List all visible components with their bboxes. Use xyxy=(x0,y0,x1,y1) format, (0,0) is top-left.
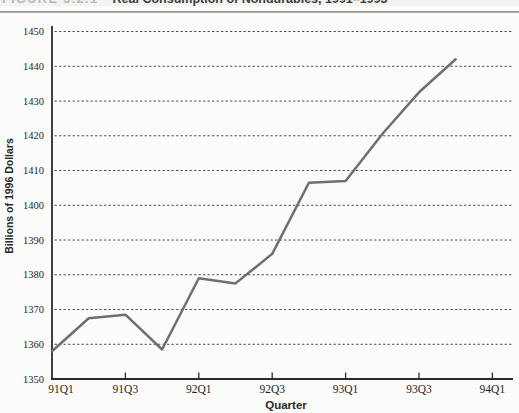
x-tick-label: 93Q1 xyxy=(333,383,359,395)
y-axis-title: Billions of 1996 Dollars xyxy=(3,138,15,254)
y-tick-label: 1420 xyxy=(23,130,44,141)
y-tick-label: 1450 xyxy=(23,26,44,37)
y-tick-label: 1380 xyxy=(23,269,44,280)
x-tick-label: 94Q1 xyxy=(480,383,506,395)
figure-number-label: FIGURE 3.2.1 xyxy=(2,0,99,6)
x-tick-label: 92Q1 xyxy=(186,383,212,395)
consumption-line-chart: 1350136013701380139014001410142014301440… xyxy=(0,0,519,413)
caption-divider-rule xyxy=(0,11,519,13)
y-tick-label: 1350 xyxy=(23,374,44,385)
x-tick-label: 91Q1 xyxy=(48,383,74,395)
page: 1350136013701380139014001410142014301440… xyxy=(0,0,519,413)
figure-title: Real Consumption of Nondurables, 1991–19… xyxy=(113,0,388,6)
y-tick-label: 1430 xyxy=(23,96,44,107)
x-axis-title: Quarter xyxy=(265,399,307,411)
y-tick-label: 1390 xyxy=(23,235,44,246)
y-tick-label: 1410 xyxy=(23,165,44,176)
y-tick-label: 1440 xyxy=(23,61,44,72)
figure-caption: FIGURE 3.2.1Real Consumption of Nondurab… xyxy=(0,0,519,6)
y-tick-label: 1360 xyxy=(23,339,44,350)
y-tick-label: 1400 xyxy=(23,200,44,211)
plot-area: 1350136013701380139014001410142014301440… xyxy=(0,0,519,413)
y-tick-label: 1370 xyxy=(23,304,44,315)
x-tick-label: 91Q3 xyxy=(113,383,139,395)
x-tick-label: 93Q3 xyxy=(406,383,432,395)
x-tick-label: 92Q3 xyxy=(259,383,285,395)
